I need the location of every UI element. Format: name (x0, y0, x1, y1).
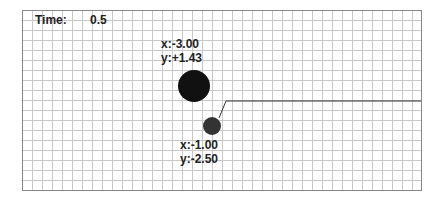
large-body-label: x:-3.00 y:+1.43 (161, 37, 202, 65)
large-body-x: x:-3.00 (161, 37, 202, 51)
time-value: 0.5 (90, 13, 107, 27)
simulation-canvas (0, 0, 443, 201)
large-body[interactable] (178, 70, 210, 102)
small-body[interactable] (203, 117, 221, 135)
small-body-label: x:-1.00 y:-2.50 (180, 138, 218, 166)
small-body-y: y:-2.50 (180, 152, 218, 166)
trajectory-line (219, 101, 421, 118)
large-body-y: y:+1.43 (161, 51, 202, 65)
time-label: Time: (35, 13, 67, 27)
small-body-x: x:-1.00 (180, 138, 218, 152)
grid (22, 10, 422, 191)
